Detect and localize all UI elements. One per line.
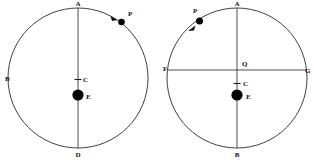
orbit-diagram-right: A F G Q C E B P	[163, 0, 311, 159]
point-label-b-left: B	[5, 75, 10, 83]
point-label-q-right: Q	[242, 60, 248, 68]
orbit-figure-root: A B C E D P A F G Q C E B P	[0, 0, 314, 160]
earth-body-left	[72, 89, 83, 100]
point-label-d-left: D	[75, 151, 80, 159]
point-label-e-right: E	[246, 93, 251, 101]
orbit-figure-canvas: A B C E D P A F G Q C E B P	[0, 0, 314, 160]
point-label-g-right: G	[305, 67, 311, 75]
planet-p-left	[118, 19, 125, 26]
point-label-p-left: P	[128, 10, 133, 18]
point-label-a-right: A	[234, 0, 239, 8]
point-label-c-left: C	[83, 76, 88, 84]
point-label-a-left: A	[75, 0, 80, 8]
planet-p-right	[196, 18, 203, 25]
earth-body-right	[231, 89, 242, 100]
orbit-diagram-left: A B C E D P	[5, 0, 148, 159]
motion-arrow-left	[111, 16, 118, 21]
point-label-p-right: P	[193, 7, 198, 15]
point-label-f-right: F	[163, 65, 167, 73]
point-label-b-right: B	[235, 151, 240, 159]
point-label-e-left: E	[86, 93, 91, 101]
point-label-c-right: C	[243, 80, 248, 88]
